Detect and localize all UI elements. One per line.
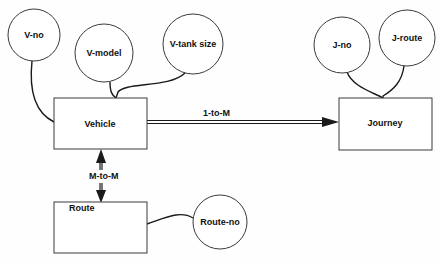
arrowhead-icon <box>322 117 339 127</box>
svg-text:Route: Route <box>69 203 95 213</box>
arrowhead-up-icon <box>96 149 106 163</box>
connector-vmodel-vehicle <box>110 82 116 98</box>
connector-vno-vehicle <box>31 61 54 122</box>
relationship-M-to-M: M-to-M <box>89 149 118 203</box>
svg-text:Journey: Journey <box>367 118 402 128</box>
attribute-route-no: Route-no <box>193 195 247 249</box>
relationship-1-to-M: 1-to-M <box>147 108 339 127</box>
svg-text:V-tank size: V-tank size <box>170 39 217 49</box>
attribute-j-route: J-route <box>379 10 435 66</box>
entity-route: Route <box>54 202 147 253</box>
svg-text:V-no: V-no <box>24 30 44 40</box>
entity-vehicle: Vehicle <box>54 98 147 149</box>
attribute-v-no: V-no <box>8 9 60 61</box>
entity-journey: Journey <box>339 98 432 150</box>
attribute-v-model: V-model <box>75 24 133 82</box>
svg-text:Vehicle: Vehicle <box>84 119 115 129</box>
er-diagram: 1-to-M M-to-M V-no V-model V-tank size J… <box>0 0 442 263</box>
relationship-label-1-to-M: 1-to-M <box>203 108 230 118</box>
attribute-j-no: J-no <box>314 17 370 73</box>
svg-text:V-model: V-model <box>86 48 121 58</box>
connector-jno-journey <box>347 72 383 98</box>
svg-text:Route-no: Route-no <box>200 217 240 227</box>
connector-route-routeno <box>147 215 193 224</box>
arrowhead-down-icon <box>96 190 106 203</box>
attribute-v-tank-size: V-tank size <box>163 14 223 74</box>
svg-text:J-no: J-no <box>333 40 353 50</box>
svg-text:J-route: J-route <box>392 33 423 43</box>
connector-vtank-vehicle <box>116 73 185 98</box>
relationship-label-M-to-M: M-to-M <box>89 171 118 181</box>
connector-jroute-journey <box>383 66 404 98</box>
